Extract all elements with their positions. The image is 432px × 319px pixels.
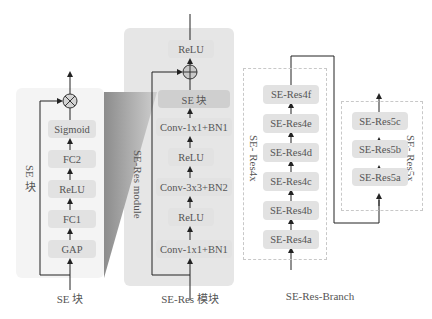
layer-fc1: FC1 xyxy=(48,210,96,228)
block-se-res5c: SE-Res5c xyxy=(352,112,408,130)
block-se-res4c: SE-Res4c xyxy=(263,172,319,191)
layer-sigmoid: Sigmoid xyxy=(48,120,96,138)
zoom-wedge xyxy=(104,92,157,278)
block-se-res4a: SE-Res4a xyxy=(263,230,319,249)
layer-relu-2: ReLU xyxy=(168,148,214,166)
block-se-res5b: SE-Res5b xyxy=(352,140,408,158)
layer-fc2: FC2 xyxy=(48,150,96,168)
se-block-caption: SE 块 xyxy=(50,290,90,306)
layer-conv1x1-bn1-top: Conv-1x1+BN1 xyxy=(156,118,232,136)
layer-relu: ReLU xyxy=(48,180,96,198)
se-res-side-label: SE-Res module xyxy=(132,150,144,219)
layer-relu-1: ReLU xyxy=(168,208,214,226)
se-res-caption: SE-Res 模块 xyxy=(150,290,230,306)
layer-gap: GAP xyxy=(48,240,96,258)
block-se-res4e: SE-Res4e xyxy=(263,114,319,133)
se-res-branch-caption: SE-Res-Branch xyxy=(270,290,370,302)
layer-conv3x3-bn2: Conv-3x3+BN2 xyxy=(156,178,232,196)
se-block-side-label: SE 块 xyxy=(22,165,38,192)
multiply-icon xyxy=(63,94,77,108)
layer-top-relu: ReLU xyxy=(168,40,214,58)
block-se-res4d: SE-Res4d xyxy=(263,143,319,162)
block-se-res5a: SE-Res5a xyxy=(352,168,408,186)
add-icon xyxy=(183,65,197,79)
layer-se-block: SE 块 xyxy=(158,90,230,108)
layer-conv1x1-bn1-bottom: Conv-1x1+BN1 xyxy=(156,240,232,258)
block-se-res4f: SE-Res4f xyxy=(263,85,319,104)
block-se-res4b: SE-Res4b xyxy=(263,201,319,220)
se-res4x-side-label: SE- Res4x xyxy=(248,135,260,182)
